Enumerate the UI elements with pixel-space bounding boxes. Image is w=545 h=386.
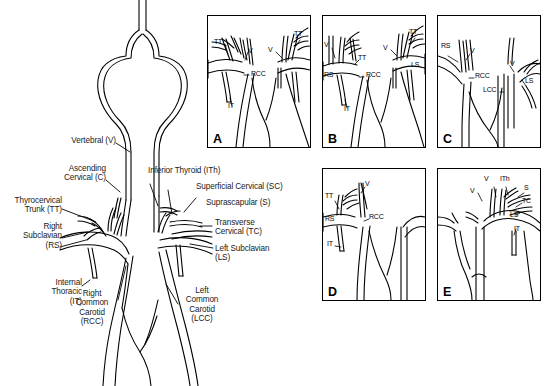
panel-b: V TT RS RCC IT V TT LS B bbox=[322, 15, 426, 148]
label-left-common-carotid: Left Common Carotid (LCC) bbox=[178, 286, 226, 324]
label-inferior-thyroid: Inferior Thyroid (ITh) bbox=[148, 166, 244, 175]
panel-e-letter: E bbox=[443, 285, 451, 299]
label-superficial-cervical: Superficial Cervical (SC) bbox=[196, 182, 308, 191]
panel-e-callout-s: S bbox=[524, 184, 528, 191]
panel-d-letter: D bbox=[328, 285, 337, 299]
panel-d-callout-v: V bbox=[365, 180, 369, 187]
panel-a-callout-v-right: V bbox=[248, 47, 252, 54]
panel-d-callout-rcc: RCC bbox=[369, 213, 384, 220]
panel-b-artwork bbox=[323, 16, 425, 147]
panel-c-callout-rcc: RCC bbox=[475, 72, 490, 79]
label-transverse-cervical: Transverse Cervical (TC) bbox=[215, 218, 291, 237]
panel-b-callout-rs: RS bbox=[324, 71, 333, 78]
label-ascending-cervical: Ascending Cervical (C) bbox=[22, 164, 106, 183]
label-suprascapular: Suprascapular (S) bbox=[206, 198, 304, 207]
panel-b-callout-tt-left: TT bbox=[409, 28, 417, 35]
panel-e-callout-it: IT bbox=[514, 225, 520, 232]
panel-d-callout-it: IT bbox=[327, 240, 333, 247]
panel-e: V ITh S V TC LS IT E bbox=[437, 168, 541, 301]
panel-b-callout-v-right: V bbox=[324, 41, 328, 48]
panel-c-callout-rs: RS bbox=[441, 42, 450, 49]
panel-d-callout-rs: RS bbox=[325, 215, 334, 222]
label-thyrocervical-trunk: Thyrocervical Trunk (TT) bbox=[0, 196, 62, 215]
panel-c-callout-lcc: LCC bbox=[483, 86, 496, 93]
panel-a: TT V RCC IT V TT A bbox=[207, 15, 311, 148]
panel-c-callout-v-right: V bbox=[470, 47, 474, 54]
label-left-subclavian: Left Subclavian (LS) bbox=[215, 244, 293, 263]
panel-a-callout-tt-left: TT bbox=[294, 30, 302, 37]
figure-canvas: Vertebral (V) Ascending Cervical (C) Thy… bbox=[0, 0, 545, 386]
panel-e-callout-ith: ITh bbox=[500, 175, 510, 182]
panel-e-callout-v-upper: V bbox=[484, 175, 488, 182]
panel-a-callout-it: IT bbox=[228, 102, 234, 109]
panel-d: TT V RS RCC IT D bbox=[322, 168, 426, 301]
panel-e-callout-tc: TC bbox=[522, 197, 531, 204]
panel-c: RS V RCC LCC V LS C bbox=[437, 15, 541, 148]
panel-d-artwork bbox=[323, 169, 425, 300]
panel-e-callout-v-left: V bbox=[470, 187, 474, 194]
panel-a-letter: A bbox=[213, 132, 222, 146]
panel-a-callout-rcc: RCC bbox=[251, 70, 266, 77]
panel-c-callout-v-left: V bbox=[510, 60, 514, 67]
panel-b-callout-tt-right: TT bbox=[358, 54, 366, 61]
panel-a-callout-v-left: V bbox=[268, 46, 272, 53]
panel-b-letter: B bbox=[328, 132, 337, 146]
label-right-subclavian: Right Subclavian (RS) bbox=[4, 222, 62, 250]
panel-b-callout-ls: LS bbox=[411, 61, 419, 68]
panel-c-callout-ls: LS bbox=[525, 77, 533, 84]
panel-b-callout-rcc: RCC bbox=[366, 71, 381, 78]
label-vertebral: Vertebral (V) bbox=[18, 136, 116, 145]
label-right-common-carotid: Right Common Carotid (RCC) bbox=[66, 289, 118, 327]
panel-d-callout-tt: TT bbox=[325, 192, 333, 199]
panel-e-callout-ls: LS bbox=[510, 211, 518, 218]
panel-b-callout-it: IT bbox=[344, 105, 350, 112]
panel-a-callout-tt-right: TT bbox=[214, 38, 222, 45]
panel-c-letter: C bbox=[443, 132, 452, 146]
panel-b-callout-v-left: V bbox=[383, 44, 387, 51]
